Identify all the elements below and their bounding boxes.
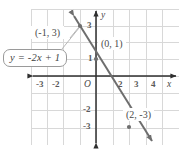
y-tick--3: -3 — [83, 121, 91, 131]
x-tick-3: 3 — [134, 79, 139, 89]
coordinate-plane-figure: -3 -2 2 3 4 3 1 -2 -3 O x y (-1, 3) (0, … — [0, 0, 183, 153]
point-label-upper: (-1, 3) — [31, 26, 64, 39]
x-axis-name: x — [167, 79, 171, 89]
x-tick--2: -2 — [52, 79, 60, 89]
x-tick-2: 2 — [118, 79, 123, 89]
point-2-neg3 — [127, 125, 131, 129]
point-label-intercept: (0, 1) — [98, 37, 126, 50]
x-tick-4: 4 — [151, 79, 156, 89]
leader-lines — [62, 27, 79, 49]
point-label-lower: (2, -3) — [123, 108, 154, 121]
equation-callout-box: y = -2x + 1 — [3, 49, 67, 67]
y-tick-3: 3 — [87, 20, 92, 30]
leader-equation — [62, 28, 79, 49]
origin-label: O — [84, 79, 91, 89]
y-axis-name: y — [101, 10, 105, 20]
leader-point-upper — [70, 27, 79, 38]
point-0-1 — [94, 57, 98, 61]
y-tick--2: -2 — [83, 104, 91, 114]
y-tick-1: 1 — [88, 53, 93, 63]
x-tick--3: -3 — [36, 79, 44, 89]
